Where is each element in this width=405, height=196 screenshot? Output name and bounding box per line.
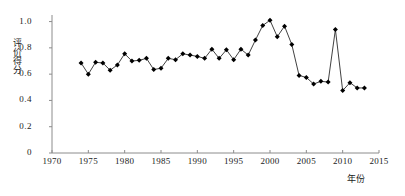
data-point-marker (362, 85, 367, 90)
data-point-marker (79, 60, 84, 65)
chart-figure: 评价得分 年份 00.20.40.60.81.0 197019751980198… (0, 0, 405, 196)
plot-area (0, 0, 405, 196)
data-point-marker (144, 56, 149, 61)
axis-lines (52, 15, 379, 153)
data-point-marker (326, 80, 331, 85)
data-point-marker (137, 58, 142, 63)
data-point-marker (297, 73, 302, 78)
data-point-marker (253, 37, 258, 42)
data-point-marker (289, 42, 294, 47)
data-point-marker (151, 67, 156, 72)
data-point-marker (93, 60, 98, 65)
data-point-marker (188, 53, 193, 58)
data-point-marker (318, 79, 323, 84)
data-point-marker (86, 72, 91, 77)
data-point-marker (333, 27, 338, 32)
data-point-marker (195, 54, 200, 59)
